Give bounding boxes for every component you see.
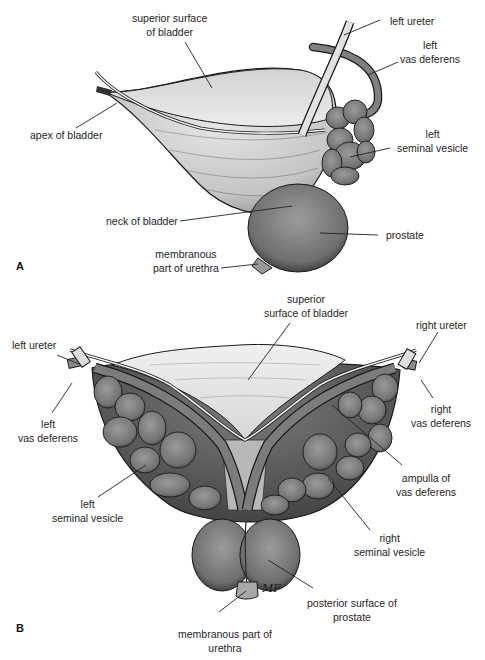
label-b-left-vas-deferens: left vas deferens: [18, 417, 78, 445]
label-a-membranous-urethra: membranous part of urethra: [153, 247, 219, 275]
label-a-left-ureter: left ureter: [390, 14, 434, 28]
illustrator-signature: MF: [262, 582, 281, 596]
label-b-superior-surface: superior surface of bladder: [264, 292, 348, 320]
label-a-left-seminal-vesicle: left seminal vesicle: [397, 127, 468, 155]
anatomy-figure: MF A superior surface of bladder left ur…: [0, 0, 485, 660]
label-a-superior-surface: superior surface of bladder: [132, 11, 207, 39]
label-a-prostate: prostate: [386, 228, 424, 242]
panel-b-letter: B: [16, 622, 24, 634]
illustration: [0, 0, 485, 660]
label-b-left-seminal-vesicle: left seminal vesicle: [52, 497, 123, 525]
label-a-neck-of-bladder: neck of bladder: [106, 214, 178, 228]
label-b-posterior-surface-of-prostate: posterior surface of prostate: [307, 596, 397, 624]
label-b-right-ureter: right ureter: [416, 318, 467, 332]
panel-a-drawing: [76, 20, 398, 274]
label-b-right-vas-deferens: right vas deferens: [411, 402, 471, 430]
label-a-apex-of-bladder: apex of bladder: [30, 128, 102, 142]
panel-a-letter: A: [16, 260, 24, 272]
label-b-right-seminal-vesicle: right seminal vesicle: [354, 531, 425, 559]
label-b-left-ureter: left ureter: [12, 338, 56, 352]
panel-b-drawing: [52, 323, 438, 612]
label-b-membranous-urethra: membranous part of urethra: [178, 627, 272, 655]
label-a-left-vas-deferens: left vas deferens: [400, 38, 460, 66]
label-b-ampulla-of-vas-deferens: ampulla of vas deferens: [396, 471, 456, 499]
